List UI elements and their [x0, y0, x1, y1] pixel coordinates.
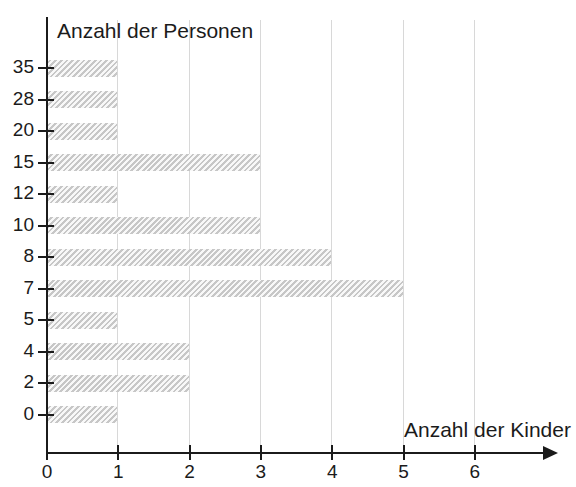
y-tick-label-15: 15: [0, 151, 34, 173]
y-tick-8: [38, 256, 54, 258]
gridline-x-2: [189, 20, 190, 453]
x-tick-label-0: 0: [32, 461, 62, 483]
bar-28: [48, 91, 117, 108]
y-tick-label-20: 20: [0, 119, 34, 141]
bar-35: [48, 60, 117, 77]
y-tick-12: [38, 193, 54, 195]
x-tick-4: [331, 445, 333, 460]
y-tick-35: [38, 67, 54, 69]
x-axis-arrow-icon: [543, 446, 558, 460]
bar-4: [48, 343, 189, 360]
x-axis-line: [46, 452, 546, 454]
x-axis-title: Anzahl der Kinder: [404, 418, 571, 442]
gridline-x-4: [331, 20, 332, 453]
y-tick-label-4: 4: [0, 340, 34, 362]
x-tick-1: [117, 445, 119, 460]
plot-area: 352820151210875420 0123456 Anzahl der Pe…: [0, 0, 576, 487]
y-axis-line: [46, 17, 48, 453]
y-tick-label-0: 0: [0, 403, 34, 425]
x-tick-0: [46, 445, 48, 460]
bar-20: [48, 123, 117, 140]
bar-15: [48, 154, 260, 171]
y-tick-10: [38, 225, 54, 227]
y-tick-label-28: 28: [0, 88, 34, 110]
y-tick-7: [38, 288, 54, 290]
y-tick-4: [38, 351, 54, 353]
y-tick-label-7: 7: [0, 277, 34, 299]
bar-5: [48, 312, 117, 329]
bar-12: [48, 186, 117, 203]
y-tick-0: [38, 414, 54, 416]
x-tick-label-1: 1: [103, 461, 133, 483]
y-tick-2: [38, 382, 54, 384]
y-tick-label-5: 5: [0, 308, 34, 330]
y-tick-20: [38, 130, 54, 132]
x-tick-5: [403, 445, 405, 460]
y-axis-title: Anzahl der Personen: [57, 19, 253, 43]
y-tick-label-10: 10: [0, 214, 34, 236]
y-tick-5: [38, 319, 54, 321]
bar-10: [48, 217, 260, 234]
gridline-x-6: [474, 20, 475, 453]
y-tick-label-35: 35: [0, 56, 34, 78]
x-tick-label-2: 2: [175, 461, 205, 483]
x-tick-label-4: 4: [317, 461, 347, 483]
bar-chart-figure: 352820151210875420 0123456 Anzahl der Pe…: [0, 0, 576, 487]
bar-0: [48, 406, 117, 423]
bar-2: [48, 375, 189, 392]
x-tick-label-5: 5: [389, 461, 419, 483]
gridline-x-5: [403, 20, 404, 453]
y-tick-label-12: 12: [0, 182, 34, 204]
x-tick-2: [189, 445, 191, 460]
x-tick-label-6: 6: [460, 461, 490, 483]
y-tick-15: [38, 162, 54, 164]
x-tick-label-3: 3: [246, 461, 276, 483]
y-tick-label-8: 8: [0, 245, 34, 267]
y-tick-label-2: 2: [0, 371, 34, 393]
bar-7: [48, 280, 403, 297]
x-tick-3: [260, 445, 262, 460]
x-tick-6: [474, 445, 476, 460]
bar-8: [48, 249, 331, 266]
gridline-x-3: [260, 20, 261, 453]
y-tick-28: [38, 99, 54, 101]
